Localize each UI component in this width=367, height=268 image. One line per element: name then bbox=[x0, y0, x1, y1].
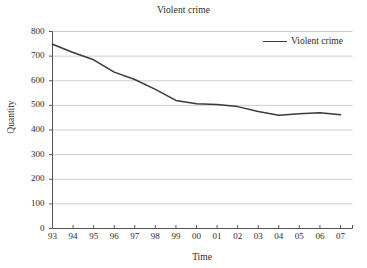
chart-figure: Violent crime Quantity Time 010020030040… bbox=[0, 0, 367, 268]
gridlines-group bbox=[53, 32, 353, 204]
x-tick-label: 98 bbox=[144, 231, 166, 241]
x-tick-label: 01 bbox=[206, 231, 228, 241]
y-tick-label: 300 bbox=[11, 149, 45, 159]
x-tick-label: 96 bbox=[103, 231, 125, 241]
y-tick-label: 0 bbox=[11, 223, 45, 233]
x-tick-label: 07 bbox=[330, 231, 352, 241]
data-line-violent-crime bbox=[53, 44, 341, 115]
x-tick-label: 99 bbox=[165, 231, 187, 241]
x-tick-label: 00 bbox=[186, 231, 208, 241]
y-tick-label: 800 bbox=[11, 26, 45, 36]
y-tick-label: 700 bbox=[11, 50, 45, 60]
x-tick-label: 06 bbox=[309, 231, 331, 241]
y-tick-label: 500 bbox=[11, 99, 45, 109]
y-tick-label: 400 bbox=[11, 124, 45, 134]
chart-legend: Violent crime bbox=[263, 36, 343, 46]
y-tick-label: 600 bbox=[11, 75, 45, 85]
data-series-group bbox=[53, 44, 341, 115]
x-tick-label: 05 bbox=[288, 231, 310, 241]
y-tick-label: 200 bbox=[11, 173, 45, 183]
y-tick-label: 100 bbox=[11, 198, 45, 208]
x-tick-label: 93 bbox=[42, 231, 64, 241]
x-tick-label: 04 bbox=[268, 231, 290, 241]
x-tick-label: 94 bbox=[62, 231, 84, 241]
x-tick-label: 02 bbox=[227, 231, 249, 241]
legend-label: Violent crime bbox=[291, 36, 343, 46]
legend-line-swatch-icon bbox=[263, 41, 287, 42]
x-tick-label: 03 bbox=[247, 231, 269, 241]
x-tick-label: 97 bbox=[124, 231, 146, 241]
x-tick-label: 95 bbox=[83, 231, 105, 241]
